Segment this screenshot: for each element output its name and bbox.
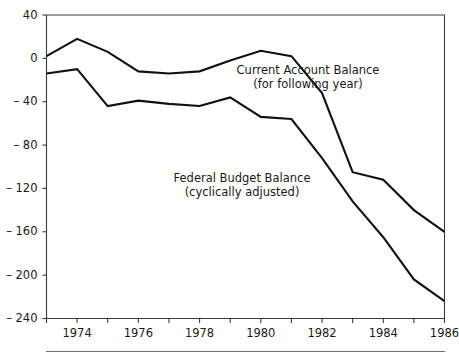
y-axis-tick-label: – 240 [6,311,37,325]
x-axis-tick-label: 1982 [307,326,336,340]
current-account-balance-label-line2: (for following year) [253,77,362,91]
annotation-current-account-balance: Current Account Balance (for following y… [237,63,380,91]
x-axis-tick-label: 1978 [185,326,214,340]
y-axis-tick-label: – 160 [6,224,37,238]
x-axis-tick-label: 1974 [62,326,91,340]
y-axis-tick-label: 40 [23,8,38,22]
x-axis-tick-label: 1976 [124,326,153,340]
x-axis-ticks [47,319,445,324]
federal-budget-balance-label-line2: (cyclically adjusted) [185,185,300,199]
y-axis-tick-label: 0 [30,51,37,65]
x-axis-tick-label: 1984 [369,326,398,340]
line-chart: 400– 40– 80– 120– 160– 200– 240 19741976… [0,0,459,361]
y-axis-ticks [43,15,47,319]
x-axis-tick-label: 1986 [430,326,459,340]
chart-series-group [47,39,445,301]
x-axis-tick-label: 1980 [246,326,275,340]
x-axis-tick-labels: 1974197619781980198219841986 [62,326,459,340]
footer-divider [46,351,445,352]
chart-axes [47,15,446,319]
federal-budget-balance-label-line1: Federal Budget Balance [174,171,311,185]
chart-figure: 400– 40– 80– 120– 160– 200– 240 19741976… [0,0,459,361]
y-axis-tick-label: – 80 [13,138,37,152]
current-account-balance-label-line1: Current Account Balance [237,63,380,77]
y-axis-tick-label: – 200 [6,268,37,282]
annotation-federal-budget-balance: Federal Budget Balance (cyclically adjus… [174,171,311,199]
y-axis-tick-label: – 40 [13,94,37,108]
y-axis-tick-label: – 120 [6,181,37,195]
y-axis-tick-labels: 400– 40– 80– 120– 160– 200– 240 [6,8,37,326]
